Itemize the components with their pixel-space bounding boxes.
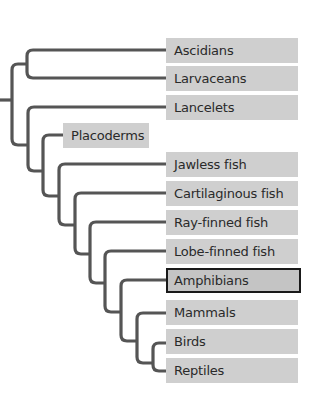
node-tunicates (27, 50, 166, 78)
taxon-label-birds: Birds (166, 329, 298, 354)
node-diapsids (153, 343, 166, 371)
taxon-label-placoderms: Placoderms (63, 123, 149, 148)
node-amphibians (121, 280, 166, 341)
node-root (12, 64, 28, 145)
taxon-label-lobe-finned-fish: Lobe-finned fish (166, 239, 298, 264)
taxon-label-jawless-fish: Jawless fish (166, 152, 298, 177)
taxon-label-ascidians: Ascidians (166, 38, 298, 63)
taxon-label-ray-finned-fish: Ray-finned fish (166, 210, 298, 235)
taxon-label-mammals: Mammals (166, 300, 298, 325)
taxon-label-reptiles: Reptiles (166, 358, 298, 383)
taxon-label-larvaceans: Larvaceans (166, 66, 298, 91)
taxon-label-amphibians: Amphibians (166, 268, 301, 293)
taxon-label-lancelets: Lancelets (166, 95, 298, 120)
taxon-label-cartilaginous-fish: Cartilaginous fish (166, 181, 298, 206)
